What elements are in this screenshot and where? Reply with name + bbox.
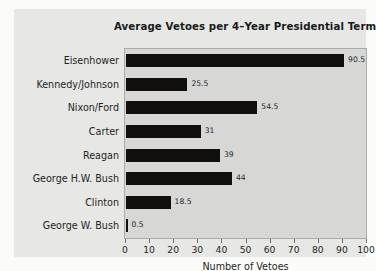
x-axis-tick-label: 10 <box>143 244 155 255</box>
x-axis-tick <box>318 239 319 243</box>
figure-container: Average Vetoes per 4–Year Presidential T… <box>0 0 376 271</box>
x-axis-tick <box>270 239 271 243</box>
x-axis-tick <box>366 239 367 243</box>
bar-value-label: 0.5 <box>132 220 144 230</box>
category-label: Nixon/Ford <box>68 101 119 114</box>
x-axis-tick <box>125 239 126 243</box>
bar-value-label: 54.5 <box>261 102 278 112</box>
bar-value-label: 90.5 <box>348 55 365 65</box>
bar-row: George H.W. Bush44 <box>125 167 366 191</box>
category-label: Carter <box>89 125 119 138</box>
bar-value-label: 44 <box>236 173 246 183</box>
bar-row: George W. Bush0.5 <box>125 214 366 238</box>
bars-container: Eisenhower90.5Kennedy/Johnson25.5Nixon/F… <box>125 49 366 238</box>
x-axis-tick <box>149 239 150 243</box>
x-axis-tick-label: 30 <box>191 244 203 255</box>
chart-card: Average Vetoes per 4–Year Presidential T… <box>14 9 366 257</box>
bar-value-label: 18.5 <box>175 197 192 207</box>
x-axis-tick-label: 70 <box>288 244 300 255</box>
category-label: Clinton <box>85 196 119 209</box>
x-axis-tick-label: 90 <box>336 244 348 255</box>
category-label: Eisenhower <box>64 54 119 67</box>
bar-row: Carter31 <box>125 120 366 144</box>
x-axis-title: Number of Vetoes <box>124 261 367 271</box>
category-label: George H.W. Bush <box>33 172 119 185</box>
bar-row: Clinton18.5 <box>125 191 366 215</box>
x-axis-tick <box>173 239 174 243</box>
x-axis-tick <box>246 239 247 243</box>
plot-area: Eisenhower90.5Kennedy/Johnson25.5Nixon/F… <box>124 48 367 239</box>
category-label: Kennedy/Johnson <box>36 78 119 91</box>
category-label: George W. Bush <box>43 219 119 232</box>
bar-value-label: 31 <box>205 126 215 136</box>
x-axis-tick <box>197 239 198 243</box>
bar-row: Kennedy/Johnson25.5 <box>125 73 366 97</box>
x-axis-tick-label: 20 <box>167 244 179 255</box>
bar <box>126 54 344 67</box>
chart-title: Average Vetoes per 4–Year Presidential T… <box>114 21 376 32</box>
x-axis-tick-label: 0 <box>122 244 128 255</box>
x-axis-tick-label: 50 <box>240 244 252 255</box>
bar <box>126 172 232 185</box>
bar <box>126 78 187 91</box>
x-axis: 0102030405060708090100 <box>124 239 367 240</box>
bar <box>126 196 171 209</box>
bar-row: Nixon/Ford54.5 <box>125 96 366 120</box>
x-axis-tick-label: 80 <box>312 244 324 255</box>
bar <box>126 125 201 138</box>
x-axis-tick <box>221 239 222 243</box>
x-axis-tick <box>294 239 295 243</box>
bar <box>126 149 220 162</box>
x-axis-tick-label: 40 <box>216 244 228 255</box>
bar <box>126 101 257 114</box>
x-axis-tick-label: 60 <box>264 244 276 255</box>
bar-row: Reagan39 <box>125 144 366 168</box>
x-axis-tick <box>342 239 343 243</box>
bar-value-label: 25.5 <box>191 79 208 89</box>
bar <box>126 219 128 232</box>
bar-value-label: 39 <box>224 150 234 160</box>
bar-row: Eisenhower90.5 <box>125 49 366 73</box>
category-label: Reagan <box>83 149 119 162</box>
x-axis-tick-label: 100 <box>357 244 375 255</box>
